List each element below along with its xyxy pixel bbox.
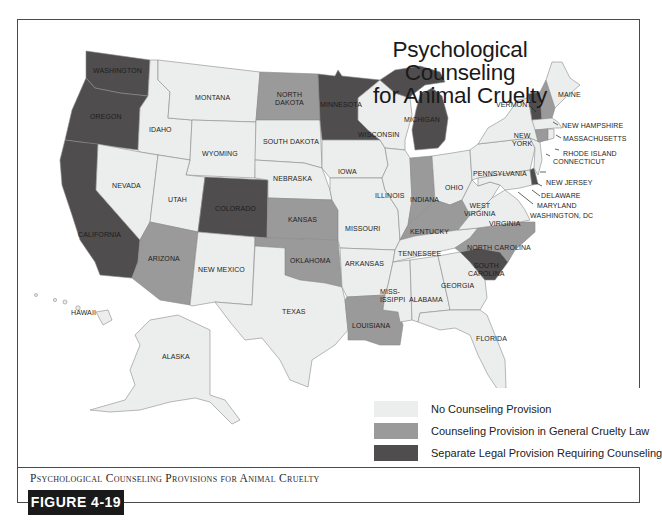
caption-divider [17, 467, 640, 468]
label-wisconsin: WISCONSIN [358, 131, 399, 139]
label-georgia: GEORGIA [441, 282, 474, 290]
label-new-jersey: NEW JERSEY [546, 179, 593, 187]
label-oklahoma: OKLAHOMA [290, 257, 330, 265]
label-new-york-line1: NEW [512, 132, 532, 140]
label-arizona: ARIZONA [148, 255, 180, 263]
label-mississippi-line1: MISS- [380, 288, 405, 296]
label-oregon: OREGON [90, 113, 122, 121]
state-hawaii[interactable] [96, 310, 112, 325]
label-new-mexico: NEW MEXICO [198, 266, 245, 274]
label-iowa: IOWA [338, 168, 357, 176]
legend-item-general: Counseling Provision in General Cruelty … [374, 423, 649, 439]
map-title-line1: Psychological Counseling [340, 38, 580, 84]
label-rhode-island: RHODE ISLAND [563, 150, 617, 158]
map-title: Psychological Counseling for Animal Crue… [340, 38, 580, 107]
legend: No Counseling Provision Counseling Provi… [362, 388, 640, 468]
label-tennessee: TENNESSEE [398, 250, 441, 258]
label-north-dakota-line2: DAKOTA [275, 99, 304, 107]
label-massachusetts: MASSACHUSETTS [563, 135, 627, 143]
label-south-carolina: SOUTH CAROLINA [468, 262, 505, 278]
label-louisiana: LOUISIANA [352, 322, 390, 330]
label-south-dakota: SOUTH DAKOTA [263, 138, 319, 146]
figure-caption: Psychological Counseling Provisions for … [30, 472, 320, 484]
legend-item-none: No Counseling Provision [374, 401, 551, 417]
legend-label-none: No Counseling Provision [431, 403, 551, 415]
legend-swatch-separate [374, 445, 418, 461]
label-colorado: COLORADO [215, 205, 256, 213]
label-pennsylvania: PENNSYLVANIA [473, 170, 527, 178]
label-new-york: NEW YORK [512, 132, 532, 148]
label-ohio: OHIO [445, 184, 463, 192]
label-hawaii: HAWAII [71, 309, 96, 317]
figure-number-label: FIGURE 4-19 [28, 490, 124, 515]
map-title-line2: for Animal Cruelty [340, 84, 580, 107]
legend-swatch-general [374, 423, 418, 439]
label-west-virginia: WEST VIRGINIA [464, 202, 496, 218]
legend-swatch-none [374, 401, 418, 417]
state-rhode-island[interactable] [548, 129, 554, 140]
label-wyoming: WYOMING [202, 150, 238, 158]
legend-label-general: Counseling Provision in General Cruelty … [431, 425, 649, 437]
label-arkansas: ARKANSAS [345, 260, 384, 268]
state-alaska[interactable] [90, 315, 240, 424]
label-alabama: ALABAMA [409, 296, 443, 304]
label-idaho: IDAHO [149, 126, 172, 134]
state-montana[interactable] [158, 60, 260, 122]
legend-item-separate: Separate Legal Provision Requiring Couns… [374, 445, 662, 461]
label-michigan: MICHIGAN [404, 116, 440, 124]
label-texas: TEXAS [282, 308, 305, 316]
label-kansas: KANSAS [288, 216, 317, 224]
label-west-virginia-line2: VIRGINIA [464, 210, 496, 218]
label-connecticut: CONNECTICUT [553, 158, 605, 166]
label-mississippi-line2: ISSIPPI [380, 296, 405, 304]
label-nevada: NEVADA [112, 182, 141, 190]
label-nebraska: NEBRASKA [273, 175, 312, 183]
label-montana: MONTANA [195, 94, 230, 102]
label-virginia: VIRGINIA [489, 220, 521, 228]
label-west-virginia-line1: WEST [464, 202, 496, 210]
label-florida: FLORIDA [476, 335, 507, 343]
label-maryland: MARYLAND [537, 202, 577, 210]
state-massachusetts[interactable] [532, 118, 562, 130]
label-alaska: ALASKA [162, 353, 190, 361]
label-delaware: DELAWARE [541, 192, 581, 200]
label-south-carolina-line1: SOUTH [468, 262, 505, 270]
label-illinois: ILLINOIS [375, 192, 405, 200]
state-wyoming[interactable] [186, 120, 256, 178]
legend-label-separate: Separate Legal Provision Requiring Couns… [431, 447, 662, 459]
label-mississippi: MISS- ISSIPPI [380, 288, 405, 304]
label-california: CALIFORNIA [78, 231, 121, 239]
label-north-dakota-line1: NORTH [275, 91, 304, 99]
label-south-carolina-line2: CAROLINA [468, 270, 505, 278]
label-washington-dc: WASHINGTON, DC [530, 212, 593, 220]
label-north-dakota: NORTH DAKOTA [275, 91, 304, 107]
state-florida[interactable] [418, 310, 506, 390]
label-new-hampshire: NEW HAMPSHIRE [562, 122, 623, 130]
label-north-carolina: NORTH CAROLINA [467, 244, 531, 252]
label-washington: WASHINGTON [93, 67, 142, 75]
label-kentucky: KENTUCKY [410, 228, 449, 236]
label-utah: UTAH [168, 196, 187, 204]
label-missouri: MISSOURI [345, 225, 380, 233]
label-indiana: INDIANA [410, 196, 439, 204]
label-new-york-line2: YORK [512, 140, 532, 148]
